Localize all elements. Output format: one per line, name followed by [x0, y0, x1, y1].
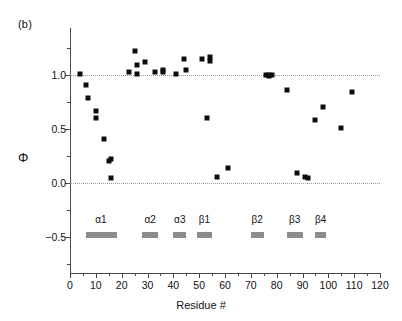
x-tick-minor: [290, 273, 291, 276]
secondary-structure-bar: [86, 232, 117, 238]
secondary-structure-bar: [197, 232, 213, 238]
x-tick-minor: [238, 273, 239, 276]
secondary-structure-bar: [287, 232, 303, 238]
x-tick-label: 90: [297, 279, 309, 291]
data-point: [83, 82, 88, 87]
data-point: [321, 105, 326, 110]
data-point: [93, 116, 98, 121]
data-point: [204, 116, 209, 121]
y-tick-minor: [67, 102, 70, 103]
secondary-structure-bar: [251, 232, 264, 238]
data-point: [142, 60, 147, 65]
data-point: [132, 49, 137, 54]
x-tick-major: [225, 273, 226, 278]
data-point: [135, 63, 140, 68]
x-tick-label: 20: [116, 279, 128, 291]
data-point: [269, 73, 274, 78]
y-axis-label: Φ: [18, 150, 28, 165]
data-point: [135, 71, 140, 76]
x-tick-major: [328, 273, 329, 278]
x-tick-major: [354, 273, 355, 278]
gridline-phi-1.0: [70, 75, 380, 76]
data-point: [109, 157, 114, 162]
x-axis-label: Residue #: [0, 299, 402, 311]
data-point: [215, 174, 220, 179]
y-tick-label: 0.5: [51, 123, 66, 135]
x-tick-major: [148, 273, 149, 278]
x-tick-minor: [367, 273, 368, 276]
data-point: [161, 67, 166, 72]
secondary-structure-label: β1: [199, 214, 210, 225]
secondary-structure-label: α1: [95, 214, 106, 225]
data-point: [184, 67, 189, 72]
x-tick-label: 30: [142, 279, 154, 291]
x-tick-major: [70, 273, 71, 278]
data-point: [86, 95, 91, 100]
secondary-structure-label: β4: [315, 214, 326, 225]
x-tick-major: [380, 273, 381, 278]
data-point: [101, 136, 106, 141]
x-tick-label: 40: [167, 279, 179, 291]
secondary-structure-bar: [142, 232, 158, 238]
secondary-structure-label: β3: [289, 214, 300, 225]
data-point: [181, 56, 186, 61]
x-tick-minor: [160, 273, 161, 276]
data-point: [109, 175, 114, 180]
secondary-structure-bar: [173, 232, 186, 238]
x-tick-major: [96, 273, 97, 278]
data-point: [349, 90, 354, 95]
secondary-structure-label: β2: [252, 214, 263, 225]
y-tick-minor: [67, 48, 70, 49]
data-point: [207, 58, 212, 63]
plot-area: α1α2α3β1β2β3β4: [70, 28, 380, 273]
data-point: [339, 125, 344, 130]
x-tick-minor: [212, 273, 213, 276]
y-tick-minor: [67, 156, 70, 157]
y-tick-minor: [67, 264, 70, 265]
x-tick-major: [199, 273, 200, 278]
x-tick-minor: [135, 273, 136, 276]
x-tick-major: [251, 273, 252, 278]
x-tick-major: [303, 273, 304, 278]
data-point: [305, 175, 310, 180]
secondary-structure-bar: [315, 232, 325, 238]
x-tick-minor: [83, 273, 84, 276]
x-tick-minor: [341, 273, 342, 276]
data-point: [199, 56, 204, 61]
x-tick-minor: [186, 273, 187, 276]
x-tick-label: 120: [371, 279, 389, 291]
data-point: [173, 71, 178, 76]
x-tick-label: 100: [320, 279, 338, 291]
data-point: [127, 69, 132, 74]
secondary-structure-label: α3: [174, 214, 185, 225]
data-point: [78, 71, 83, 76]
x-tick-label: 60: [219, 279, 231, 291]
data-point: [225, 165, 230, 170]
x-tick-minor: [315, 273, 316, 276]
figure-panel-b: (b) Φ Residue # α1α2α3β1β2β3β4 1.00.50.0…: [0, 0, 402, 321]
data-point: [313, 118, 318, 123]
x-tick-major: [122, 273, 123, 278]
x-tick-label: 110: [346, 279, 363, 291]
gridline-phi-0.0: [70, 183, 380, 184]
x-tick-label: 0: [67, 279, 73, 291]
x-tick-minor: [264, 273, 265, 276]
data-point: [285, 88, 290, 93]
data-point: [153, 69, 158, 74]
y-tick-label: 0.0: [51, 177, 66, 189]
x-tick-label: 70: [245, 279, 257, 291]
y-tick-label: −0.5: [45, 231, 66, 243]
data-point: [295, 171, 300, 176]
x-tick-label: 80: [271, 279, 283, 291]
x-tick-label: 50: [193, 279, 205, 291]
y-tick-minor: [67, 210, 70, 211]
x-tick-label: 10: [90, 279, 102, 291]
secondary-structure-label: α2: [144, 214, 155, 225]
x-tick-major: [173, 273, 174, 278]
x-tick-major: [277, 273, 278, 278]
x-tick-minor: [109, 273, 110, 276]
panel-label: (b): [18, 18, 32, 30]
data-point: [93, 108, 98, 113]
y-tick-label: 1.0: [51, 69, 66, 81]
